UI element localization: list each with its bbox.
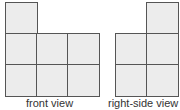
- front-cell-r2c1: [5, 33, 38, 66]
- front-cell-r2c3: [67, 33, 100, 66]
- front-cell-r3c1: [5, 64, 38, 97]
- front-cell-r3c3: [67, 64, 100, 97]
- front-cell-r3c2: [36, 64, 69, 97]
- right-cell-r1c2: [146, 2, 179, 35]
- right-cell-r2c1: [115, 33, 148, 66]
- right-side-view-label: right-side view: [108, 97, 178, 109]
- front-cell-r2c2: [36, 33, 69, 66]
- right-cell-r3c2: [146, 64, 179, 97]
- front-view-label: front view: [26, 97, 73, 109]
- right-cell-r3c1: [115, 64, 148, 97]
- front-cell-r1c1: [5, 2, 38, 35]
- right-cell-r2c2: [146, 33, 179, 66]
